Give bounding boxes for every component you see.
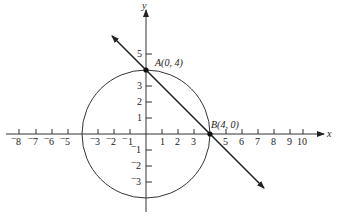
svg-text:5: 5 [65, 136, 70, 147]
svg-text:3: 3 [95, 136, 100, 147]
svg-text:3: 3 [137, 80, 142, 91]
svg-text:2: 2 [111, 136, 116, 147]
svg-text:2: 2 [175, 136, 180, 147]
x-axis-tick-labels: − 8 − 7 − 6 − 5 − 3 − 2 − 1 1 2 3 5 6 7 … [11, 133, 307, 147]
svg-text:8: 8 [16, 136, 21, 147]
x-axis-label: x [326, 128, 332, 139]
svg-text:2: 2 [137, 96, 142, 107]
svg-text:6: 6 [49, 136, 54, 147]
svg-text:1: 1 [136, 144, 141, 155]
y-axis-tick-labels: 5 3 2 1 − 1 − 2 − 3 [131, 48, 142, 187]
svg-text:9: 9 [287, 136, 292, 147]
svg-text:2: 2 [136, 160, 141, 171]
svg-text:6: 6 [239, 136, 244, 147]
point-a [143, 67, 148, 72]
svg-text:7: 7 [33, 136, 38, 147]
svg-text:1: 1 [160, 136, 165, 147]
svg-text:3: 3 [191, 136, 196, 147]
point-b-label: B(4, 0) [211, 119, 239, 131]
svg-text:5: 5 [223, 136, 228, 147]
y-axis-label: y [141, 0, 147, 11]
svg-text:7: 7 [255, 136, 260, 147]
coordinate-plane-diagram: x y − 8 − 7 − 6 − 5 − 3 − 2 − 1 1 [0, 0, 340, 221]
point-a-label: A(0, 4) [154, 57, 183, 69]
point-b [207, 131, 212, 136]
svg-text:10: 10 [297, 136, 307, 147]
svg-text:8: 8 [271, 136, 276, 147]
svg-text:1: 1 [137, 112, 142, 123]
svg-text:3: 3 [136, 176, 141, 187]
svg-text:5: 5 [137, 48, 142, 59]
